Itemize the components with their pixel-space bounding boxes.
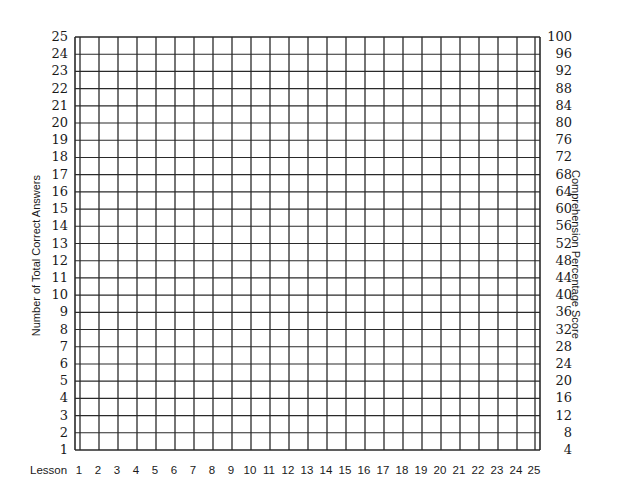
left-tick-label: 11 (30, 271, 68, 285)
right-tick-label: 8 (545, 426, 572, 440)
right-tick-label: 64 (545, 185, 572, 199)
right-tick-label: 88 (545, 82, 572, 96)
right-tick-label: 80 (545, 116, 572, 130)
right-tick-label: 72 (545, 150, 572, 164)
right-tick-label: 24 (545, 357, 572, 371)
right-tick-label: 32 (545, 323, 572, 337)
right-tick-label: 60 (545, 202, 572, 216)
x-axis-title: Lesson (30, 463, 67, 477)
left-tick-label: 4 (30, 391, 68, 405)
left-tick-label: 23 (30, 64, 68, 78)
right-tick-label: 44 (545, 271, 572, 285)
right-tick-label: 68 (545, 168, 572, 182)
left-tick-label: 16 (30, 185, 68, 199)
right-tick-label: 12 (545, 409, 572, 423)
left-tick-label: 2 (30, 426, 68, 440)
left-tick-label: 3 (30, 409, 68, 423)
left-tick-label: 5 (30, 374, 68, 388)
right-tick-label: 16 (545, 391, 572, 405)
right-tick-label: 28 (545, 340, 572, 354)
left-tick-label: 17 (30, 168, 68, 182)
left-tick-label: 13 (30, 237, 68, 251)
right-tick-label: 100 (545, 30, 572, 44)
left-tick-label: 19 (30, 133, 68, 147)
left-tick-label: 8 (30, 323, 68, 337)
left-tick-label: 12 (30, 254, 68, 268)
left-tick-label: 18 (30, 150, 68, 164)
left-tick-label: 21 (30, 99, 68, 113)
graph-grid (0, 0, 620, 499)
right-tick-label: 92 (545, 64, 572, 78)
left-tick-label: 6 (30, 357, 68, 371)
left-tick-label: 15 (30, 202, 68, 216)
right-tick-label: 48 (545, 254, 572, 268)
right-tick-label: 40 (545, 288, 572, 302)
right-tick-label: 36 (545, 305, 572, 319)
left-tick-label: 22 (30, 82, 68, 96)
right-tick-label: 20 (545, 374, 572, 388)
right-tick-label: 96 (545, 47, 572, 61)
right-tick-label: 76 (545, 133, 572, 147)
left-tick-label: 20 (30, 116, 68, 130)
left-tick-label: 14 (30, 219, 68, 233)
left-tick-label: 9 (30, 305, 68, 319)
left-tick-label: 7 (30, 340, 68, 354)
lesson-tick-label: 25 (522, 463, 546, 477)
right-tick-label: 52 (545, 237, 572, 251)
chart-area: Number of Total Correct Answers Comprehe… (0, 0, 620, 499)
right-tick-label: 4 (545, 443, 572, 457)
left-tick-label: 10 (30, 288, 68, 302)
right-tick-label: 56 (545, 219, 572, 233)
right-tick-label: 84 (545, 99, 572, 113)
left-tick-label: 1 (30, 443, 68, 457)
left-tick-label: 25 (30, 30, 68, 44)
left-tick-label: 24 (30, 47, 68, 61)
